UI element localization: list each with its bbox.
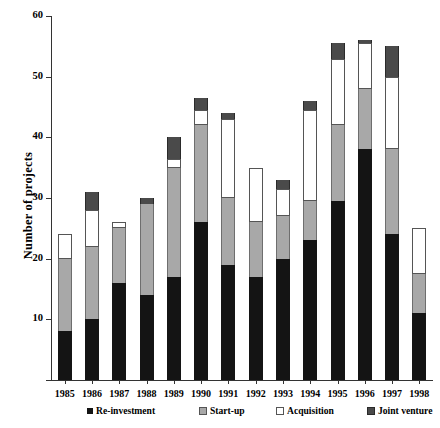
- bar-1995: [331, 43, 345, 380]
- bar-1986: [85, 192, 99, 380]
- x-axis-tick: [65, 380, 66, 384]
- bar-1998: [412, 228, 426, 380]
- x-axis-tick: [256, 380, 257, 384]
- bar-1992: [249, 168, 263, 380]
- bar-1997: [385, 46, 399, 380]
- bar-segment-1997-re-investment: [385, 234, 399, 380]
- bar-segment-1994-acquisition: [303, 110, 317, 201]
- bar-segment-1995-joint-venture: [331, 43, 345, 58]
- bar-segment-1995-re-investment: [331, 201, 345, 380]
- legend-item-acquisition[interactable]: Acquisition: [276, 406, 334, 416]
- y-axis-tick: [46, 380, 51, 381]
- bar-segment-1990-start-up: [194, 125, 208, 222]
- y-axis-tick-label: 30: [33, 191, 44, 202]
- bar-segment-1998-start-up: [412, 274, 426, 313]
- x-axis-tick: [419, 380, 420, 384]
- bar-segment-1991-acquisition: [221, 119, 235, 198]
- y-axis-tick-label: 10: [33, 312, 44, 323]
- x-axis-tick: [228, 380, 229, 384]
- y-axis-title: Number of projects: [21, 116, 36, 296]
- bar-segment-1997-joint-venture: [385, 46, 399, 76]
- x-axis-tick: [310, 380, 311, 384]
- bar-segment-1986-re-investment: [85, 319, 99, 380]
- x-axis-tick: [392, 380, 393, 384]
- legend-swatch-icon: [367, 407, 375, 415]
- x-axis-tick: [283, 380, 284, 384]
- bar-segment-1989-joint-venture: [167, 137, 181, 158]
- bar-segment-1990-acquisition: [194, 110, 208, 125]
- y-axis-tick: 40: [46, 137, 51, 138]
- bar-segment-1994-re-investment: [303, 240, 317, 380]
- x-axis-tick: [365, 380, 366, 384]
- stacked-bar-chart: Number of projects 102030405060 Re-inves…: [0, 0, 440, 428]
- bar-segment-1993-acquisition: [276, 189, 290, 216]
- bar-segment-1985-acquisition: [58, 234, 72, 258]
- bar-segment-1996-acquisition: [358, 43, 372, 89]
- x-axis-tick: [201, 380, 202, 384]
- legend-label: Joint venture: [378, 406, 432, 416]
- x-axis-label-1998: 1998: [397, 388, 440, 399]
- bar-segment-1991-start-up: [221, 198, 235, 265]
- bar-segment-1992-acquisition: [249, 168, 263, 223]
- bar-segment-1990-joint-venture: [194, 98, 208, 110]
- y-axis-tick: 10: [46, 319, 51, 320]
- y-axis-tick: 60: [46, 16, 51, 17]
- bar-segment-1995-start-up: [331, 125, 345, 201]
- bar-segment-1992-start-up: [249, 222, 263, 277]
- legend-swatch-icon: [276, 407, 284, 415]
- y-axis-tick: 20: [46, 259, 51, 260]
- bar-segment-1986-acquisition: [85, 210, 99, 246]
- bar-1987: [112, 222, 126, 380]
- legend-item-start-up[interactable]: Start-up: [199, 406, 245, 416]
- bar-segment-1989-acquisition: [167, 159, 181, 168]
- legend-swatch-icon: [199, 407, 207, 415]
- x-axis-tick: [119, 380, 120, 384]
- x-axis-tick: [338, 380, 339, 384]
- bar-1994: [303, 101, 317, 380]
- x-axis-tick: [92, 380, 93, 384]
- bar-1989: [167, 137, 181, 380]
- y-axis-tick-label: 60: [33, 9, 44, 20]
- plot-area: 102030405060: [51, 16, 433, 380]
- y-axis-tick-label: 40: [33, 130, 44, 141]
- bar-segment-1987-re-investment: [112, 283, 126, 380]
- bar-segment-1989-re-investment: [167, 277, 181, 380]
- bar-1996: [358, 40, 372, 380]
- bar-segment-1989-start-up: [167, 168, 181, 277]
- bar-segment-1996-start-up: [358, 89, 372, 150]
- legend-swatch-icon: [87, 408, 93, 414]
- x-axis-tick: [174, 380, 175, 384]
- bar-segment-1991-re-investment: [221, 265, 235, 380]
- bar-segment-1996-re-investment: [358, 149, 372, 380]
- bar-segment-1990-re-investment: [194, 222, 208, 380]
- bar-segment-1993-re-investment: [276, 259, 290, 380]
- bar-1985: [58, 234, 72, 380]
- chart-legend: Re-investmentStart-upAcquisitionJoint ve…: [51, 406, 433, 422]
- y-axis-tick: 50: [46, 77, 51, 78]
- bar-segment-1992-re-investment: [249, 277, 263, 380]
- x-axis-tick: [147, 380, 148, 384]
- legend-label: Re-investment: [96, 406, 155, 416]
- bar-segment-1988-re-investment: [140, 295, 154, 380]
- legend-item-joint-venture[interactable]: Joint venture: [367, 406, 432, 416]
- bar-segment-1993-start-up: [276, 216, 290, 258]
- x-axis-line: [51, 380, 433, 381]
- bar-segment-1993-joint-venture: [276, 180, 290, 189]
- bar-1993: [276, 180, 290, 380]
- bar-segment-1998-re-investment: [412, 313, 426, 380]
- bar-segment-1994-start-up: [303, 201, 317, 240]
- legend-item-re-investment[interactable]: Re-investment: [87, 406, 155, 416]
- bar-segment-1994-joint-venture: [303, 101, 317, 110]
- y-axis-tick: 30: [46, 198, 51, 199]
- bar-segment-1987-start-up: [112, 228, 126, 283]
- legend-label: Start-up: [210, 406, 245, 416]
- bar-1991: [221, 113, 235, 380]
- bar-1988: [140, 198, 154, 380]
- bar-segment-1986-joint-venture: [85, 192, 99, 210]
- bar-segment-1985-start-up: [58, 259, 72, 332]
- legend-label: Acquisition: [287, 406, 334, 416]
- y-axis-tick-label: 50: [33, 70, 44, 81]
- y-axis-tick-label: 20: [33, 252, 44, 263]
- bar-segment-1997-acquisition: [385, 77, 399, 150]
- bar-1990: [194, 98, 208, 380]
